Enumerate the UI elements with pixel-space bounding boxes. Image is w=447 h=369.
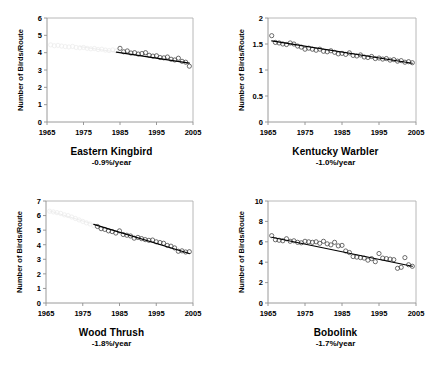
caption-bobolink: Bobolink -1.7%/year <box>224 327 447 349</box>
plot-area-wood-thrush: 01234567Number of Birds/Route 1965197519… <box>0 185 223 330</box>
svg-text:6: 6 <box>38 14 42 23</box>
svg-text:1965: 1965 <box>39 128 56 137</box>
scatter-plot-wood-thrush: 01234567Number of Birds/Route 1965197519… <box>0 185 223 330</box>
series-kentucky-warbler <box>270 34 415 65</box>
y-axis-wood-thrush: 01234567Number of Birds/Route <box>15 197 193 308</box>
svg-text:1: 1 <box>38 100 42 109</box>
svg-text:1985: 1985 <box>334 128 351 137</box>
svg-text:2: 2 <box>259 278 263 287</box>
svg-text:1975: 1975 <box>75 128 92 137</box>
svg-text:1985: 1985 <box>334 309 351 318</box>
species-name: Wood Thrush <box>0 327 223 339</box>
svg-text:0.5: 0.5 <box>253 92 263 101</box>
svg-text:1975: 1975 <box>297 309 314 318</box>
species-trend: -0.9%/year <box>0 158 223 168</box>
scatter-plot-eastern-kingbird: 0123456Number of Birds/Route 19651975198… <box>0 0 223 145</box>
x-axis-eastern-kingbird: 19651975198519952005 <box>39 122 202 137</box>
scatter-plot-kentucky-warbler: 00.511.52Number of Birds/Route 196519751… <box>224 0 447 145</box>
svg-text:1995: 1995 <box>371 128 388 137</box>
caption-eastern-kingbird: Eastern Kingbird -0.9%/year <box>0 146 223 168</box>
x-axis-bobolink: 19651975198519952005 <box>260 303 425 318</box>
svg-text:1985: 1985 <box>112 128 129 137</box>
svg-text:1965: 1965 <box>260 128 277 137</box>
svg-text:1995: 1995 <box>148 128 165 137</box>
svg-text:5: 5 <box>38 31 42 40</box>
svg-text:0: 0 <box>38 118 42 127</box>
svg-text:5: 5 <box>37 226 41 235</box>
svg-text:0: 0 <box>259 299 263 308</box>
species-trend: -1.0%/year <box>224 158 447 168</box>
svg-text:Number of Birds/Route: Number of Birds/Route <box>237 211 246 293</box>
y-axis-bobolink: 0246810Number of Birds/Route <box>237 197 416 308</box>
svg-text:Number of Birds/Route: Number of Birds/Route <box>16 29 25 111</box>
figure-container: 0123456Number of Birds/Route 19651975198… <box>0 0 447 369</box>
chart-panel-eastern-kingbird: 0123456Number of Birds/Route 19651975198… <box>0 0 223 184</box>
svg-text:Number of Birds/Route: Number of Birds/Route <box>15 211 24 293</box>
svg-text:1.5: 1.5 <box>253 40 263 49</box>
plot-area-kentucky-warbler: 00.511.52Number of Birds/Route 196519751… <box>224 0 447 145</box>
svg-text:2005: 2005 <box>185 128 202 137</box>
svg-text:4: 4 <box>38 48 43 57</box>
caption-wood-thrush: Wood Thrush -1.8%/year <box>0 327 223 349</box>
series-eastern-kingbird <box>49 43 192 69</box>
species-trend: -1.8%/year <box>0 339 223 349</box>
svg-text:1995: 1995 <box>371 309 388 318</box>
chart-panel-bobolink: 0246810Number of Birds/Route 19651975198… <box>224 185 447 369</box>
svg-text:2: 2 <box>38 83 42 92</box>
svg-text:1975: 1975 <box>297 128 314 137</box>
svg-text:10: 10 <box>255 197 263 206</box>
svg-text:4: 4 <box>259 258 264 267</box>
svg-text:1: 1 <box>259 66 263 75</box>
species-name: Eastern Kingbird <box>0 146 223 158</box>
svg-text:6: 6 <box>259 238 263 247</box>
species-trend: -1.7%/year <box>224 339 447 349</box>
caption-kentucky-warbler: Kentucky Warbler -1.0%/year <box>224 146 447 168</box>
svg-text:2: 2 <box>259 14 263 23</box>
scatter-plot-bobolink: 0246810Number of Birds/Route 19651975198… <box>224 185 447 330</box>
svg-text:1985: 1985 <box>111 309 128 318</box>
svg-text:1965: 1965 <box>38 309 55 318</box>
species-name: Bobolink <box>224 327 447 339</box>
svg-text:2005: 2005 <box>408 128 425 137</box>
y-axis-kentucky-warbler: 00.511.52Number of Birds/Route <box>237 14 416 127</box>
chart-panel-kentucky-warbler: 00.511.52Number of Birds/Route 196519751… <box>224 0 447 184</box>
y-axis-eastern-kingbird: 0123456Number of Birds/Route <box>16 14 193 127</box>
svg-text:0: 0 <box>259 118 263 127</box>
x-axis-kentucky-warbler: 19651975198519952005 <box>260 122 425 137</box>
svg-text:6: 6 <box>37 211 41 220</box>
svg-text:1965: 1965 <box>260 309 277 318</box>
svg-text:3: 3 <box>37 255 41 264</box>
svg-text:0: 0 <box>37 299 41 308</box>
plot-area-eastern-kingbird: 0123456Number of Birds/Route 19651975198… <box>0 0 223 145</box>
svg-text:2005: 2005 <box>408 309 425 318</box>
svg-text:2005: 2005 <box>185 309 202 318</box>
svg-text:1975: 1975 <box>74 309 91 318</box>
x-axis-wood-thrush: 19651975198519952005 <box>38 303 202 318</box>
svg-text:1: 1 <box>37 284 41 293</box>
plot-area-bobolink: 0246810Number of Birds/Route 19651975198… <box>224 185 447 330</box>
svg-text:8: 8 <box>259 217 263 226</box>
chart-panel-wood-thrush: 01234567Number of Birds/Route 1965197519… <box>0 185 223 369</box>
svg-text:7: 7 <box>37 197 41 206</box>
svg-text:3: 3 <box>38 66 42 75</box>
svg-text:1995: 1995 <box>148 309 165 318</box>
series-bobolink <box>270 234 415 271</box>
species-name: Kentucky Warbler <box>224 146 447 158</box>
svg-text:Number of Birds/Route: Number of Birds/Route <box>237 29 246 111</box>
series-wood-thrush <box>48 209 192 254</box>
svg-text:2: 2 <box>37 270 41 279</box>
svg-text:4: 4 <box>37 241 42 250</box>
